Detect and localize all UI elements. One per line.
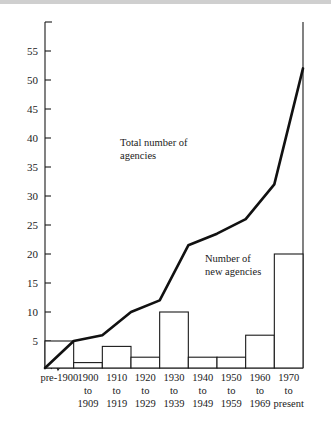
x-label-1920-to-1929-line1: 1920 bbox=[135, 372, 156, 383]
x-label-1950-to-1959-line1: 1950 bbox=[221, 372, 242, 383]
x-label-1910-to-1919-line3: 1919 bbox=[106, 398, 127, 409]
x-label-1960-to-1969-line2: to bbox=[256, 385, 264, 396]
y-tick-label-30: 30 bbox=[27, 190, 39, 202]
bar-1970-to-present[interactable] bbox=[274, 254, 303, 368]
y-tick-label-50: 50 bbox=[27, 74, 39, 86]
bar-1930-to-1939[interactable] bbox=[160, 312, 189, 368]
x-label-1900-to-1909-line1: 1900 bbox=[78, 372, 99, 383]
total-line-label-line1: Total number of bbox=[120, 137, 188, 148]
bars-label-line2: new agencies bbox=[205, 266, 261, 277]
x-label-pre-1900-line1: pre-1900 bbox=[40, 372, 78, 383]
bar-1950-to-1959[interactable] bbox=[217, 357, 246, 368]
x-label-1940-to-1949-line2: to bbox=[199, 385, 207, 396]
y-tick-label-10: 10 bbox=[27, 306, 39, 318]
x-label-1940-to-1949-line1: 1940 bbox=[192, 372, 213, 383]
bar-1910-to-1919[interactable] bbox=[102, 346, 131, 368]
x-label-1900-to-1909-line3: 1909 bbox=[78, 398, 99, 409]
y-tick-label-15: 15 bbox=[27, 277, 39, 289]
x-label-1960-to-1969-line3: 1969 bbox=[250, 398, 271, 409]
figure-container: 510152025303540455055pre-19001900to19091… bbox=[0, 0, 331, 426]
bar-1920-to-1929[interactable] bbox=[131, 357, 160, 368]
x-label-1950-to-1959-line2: to bbox=[227, 385, 235, 396]
y-tick-label-20: 20 bbox=[27, 248, 39, 260]
x-label-1930-to-1939-line3: 1939 bbox=[164, 398, 185, 409]
y-tick-label-40: 40 bbox=[27, 132, 39, 144]
x-label-1920-to-1929-line2: to bbox=[141, 385, 149, 396]
bar-1960-to-1969[interactable] bbox=[246, 335, 275, 368]
y-tick-label-45: 45 bbox=[27, 103, 39, 115]
total-line-label-line2: agencies bbox=[120, 150, 156, 161]
x-label-1970-to-present-line3: present bbox=[274, 398, 304, 409]
x-label-1970-to-present-line2: to bbox=[285, 385, 293, 396]
y-tick-label-35: 35 bbox=[27, 161, 39, 173]
x-label-1910-to-1919-line2: to bbox=[113, 385, 121, 396]
x-label-1900-to-1909-line2: to bbox=[84, 385, 92, 396]
y-tick-label-25: 25 bbox=[27, 219, 39, 231]
y-tick-label-55: 55 bbox=[27, 45, 39, 57]
x-label-1940-to-1949-line3: 1949 bbox=[192, 398, 213, 409]
x-label-1970-to-present-line1: 1970 bbox=[278, 372, 299, 383]
bar-1940-to-1949[interactable] bbox=[188, 357, 217, 368]
x-label-1910-to-1919-line1: 1910 bbox=[106, 372, 127, 383]
agency-growth-chart: 510152025303540455055pre-19001900to19091… bbox=[0, 0, 331, 426]
x-label-1960-to-1969-line1: 1960 bbox=[250, 372, 271, 383]
x-label-1930-to-1939-line2: to bbox=[170, 385, 178, 396]
y-tick-label-5: 5 bbox=[33, 335, 39, 347]
x-label-1930-to-1939-line1: 1930 bbox=[164, 372, 185, 383]
x-label-1950-to-1959-line3: 1959 bbox=[221, 398, 242, 409]
bar-1900-to-1909[interactable] bbox=[74, 363, 103, 368]
x-label-1920-to-1929-line3: 1929 bbox=[135, 398, 156, 409]
bars-label-line1: Number of bbox=[205, 253, 251, 264]
